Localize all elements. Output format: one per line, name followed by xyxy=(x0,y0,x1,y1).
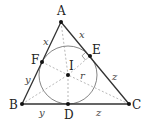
point-A xyxy=(59,20,63,24)
label-E: E xyxy=(92,43,101,57)
label-radius: r xyxy=(80,70,86,81)
label-BD: y xyxy=(38,107,45,118)
dashed-line-F-I xyxy=(42,62,68,75)
label-AE: x xyxy=(79,29,85,40)
point-D xyxy=(66,102,70,106)
label-D: D xyxy=(64,108,74,122)
dashed-line-C-I xyxy=(68,75,129,104)
point-B xyxy=(20,102,24,106)
point-C xyxy=(127,102,131,106)
label-B: B xyxy=(9,98,18,112)
label-A: A xyxy=(56,4,66,18)
incircle-diagram: A B C D E F I r x x y y z z xyxy=(0,0,149,123)
right-angle-mark xyxy=(82,52,86,60)
label-I: I xyxy=(69,59,74,73)
label-F: F xyxy=(31,53,39,67)
point-F xyxy=(40,60,44,64)
label-CE: z xyxy=(111,71,118,82)
point-I xyxy=(66,73,70,77)
label-BF: y xyxy=(24,74,31,85)
label-AF: x xyxy=(43,36,49,47)
label-CD: z xyxy=(95,107,102,118)
label-C: C xyxy=(132,98,141,112)
